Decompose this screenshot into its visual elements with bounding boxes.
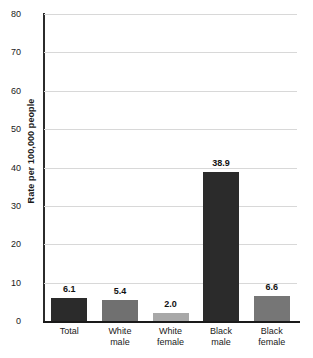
bar-value-label: 6.1 [45, 285, 93, 294]
y-axis-tick-label: 0 [0, 317, 21, 326]
bar-group[interactable]: 6.6 [248, 14, 296, 321]
y-axis-tick-label: 30 [0, 202, 21, 211]
bar[interactable] [153, 313, 189, 321]
bar-value-label: 5.4 [96, 287, 144, 296]
bar-chart: Rate per 100,000 people 0102030405060708… [0, 0, 313, 358]
bar-group[interactable]: 2.0 [147, 14, 195, 321]
bar[interactable] [203, 172, 239, 321]
x-axis-baseline [43, 321, 300, 323]
y-axis-title: Rate per 100,000 people [26, 66, 36, 236]
y-axis-tick-label: 80 [0, 10, 21, 19]
bar-value-label: 6.6 [248, 283, 296, 292]
bar[interactable] [51, 298, 87, 321]
x-axis-tick-label: Blackfemale [242, 326, 302, 348]
bar[interactable] [102, 300, 138, 321]
y-axis-tick-label: 70 [0, 48, 21, 57]
bar-group[interactable]: 38.9 [197, 14, 245, 321]
y-axis-tick-label: 20 [0, 240, 21, 249]
bar-group[interactable]: 6.1 [45, 14, 93, 321]
y-axis-tick-label: 50 [0, 125, 21, 134]
x-axis-tick-label-line: female [242, 337, 302, 348]
plot-area: 010203040506070806.15.42.038.96.6 [44, 14, 297, 321]
bar-value-label: 38.9 [197, 159, 245, 168]
y-axis-tick-label: 40 [0, 164, 21, 173]
x-axis-tick-label-line: Black [242, 326, 302, 337]
bar-value-label: 2.0 [147, 300, 195, 309]
bar-group[interactable]: 5.4 [96, 14, 144, 321]
y-axis-tick-label: 60 [0, 87, 21, 96]
y-axis-tick-label: 10 [0, 279, 21, 288]
bar[interactable] [254, 296, 290, 321]
